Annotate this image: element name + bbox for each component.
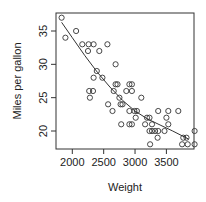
data-point [143, 122, 148, 127]
y-axis-label: Miles per gallon [11, 42, 23, 119]
x-axis-label: Weight [108, 181, 142, 193]
data-point [110, 108, 115, 113]
data-point [105, 42, 110, 47]
data-point [162, 128, 167, 133]
data-point [90, 88, 95, 93]
data-point [180, 142, 185, 147]
data-point [166, 108, 171, 113]
x-tick-label: 2000 [60, 156, 84, 168]
y-tick-label: 35 [37, 25, 49, 37]
data-point [185, 142, 190, 147]
data-point [74, 28, 79, 33]
data-point [192, 142, 197, 147]
x-tick-label: 3000 [123, 156, 147, 168]
data-point [124, 88, 129, 93]
data-point [166, 122, 171, 127]
y-tick-label: 25 [37, 92, 49, 104]
data-point [113, 62, 118, 67]
data-point [148, 142, 153, 147]
data-point [91, 75, 96, 80]
data-point [155, 135, 160, 140]
y-axis-ticks: 20253035 [37, 25, 56, 137]
data-point [156, 108, 161, 113]
data-point [129, 88, 134, 93]
data-point [87, 95, 92, 100]
y-tick-label: 20 [37, 125, 49, 137]
data-point [192, 128, 197, 133]
data-point [106, 102, 111, 107]
data-point [85, 48, 90, 53]
data-points [59, 15, 197, 147]
data-point [127, 108, 132, 113]
x-tick-label: 2500 [91, 156, 115, 168]
x-axis-ticks: 2000250030003500 [60, 149, 179, 168]
x-tick-label: 3500 [154, 156, 178, 168]
data-point [63, 35, 68, 40]
scatter-chart: 2000250030003500 20253035 Weight Miles p… [0, 0, 206, 202]
data-point [97, 48, 102, 53]
data-point [91, 42, 96, 47]
data-point [119, 122, 124, 127]
data-point [133, 115, 138, 120]
y-tick-label: 30 [37, 58, 49, 70]
data-point [164, 115, 169, 120]
data-point [80, 42, 85, 47]
data-point [86, 42, 91, 47]
data-point [156, 128, 161, 133]
data-point [139, 95, 144, 100]
data-point [176, 108, 181, 113]
data-point [59, 15, 64, 20]
